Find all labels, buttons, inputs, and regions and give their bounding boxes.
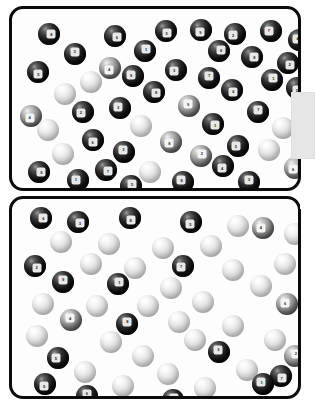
scatter-ball [284,223,298,245]
scatter-ball [37,119,59,141]
ball-number-label: 6 [229,87,238,96]
ball-shading [74,361,96,383]
scatter-ball [192,291,214,313]
scatter-ball: 6 [221,79,243,101]
scatter-ball: 7 [260,20,282,42]
panel-top-surface: 8659274316825439718654239716853297461835 [12,9,298,188]
scatter-ball: 3 [113,141,135,163]
ball-shading [130,115,152,137]
scatter-ball: 4 [252,217,274,239]
ball-number-label: 6 [82,389,91,396]
ball-shading [227,215,249,237]
scatter-ball: 2 [284,345,298,367]
ball-number-label: 3 [170,66,179,75]
ball-shading [32,293,54,315]
ball-shadow [12,9,33,23]
ball-shading [50,231,72,253]
ball-shadow [12,186,33,188]
scatter-ball: 8 [38,23,60,45]
ball-number-label: 3 [70,47,79,56]
ball-shading [200,235,222,257]
ball-number-label: 1 [269,74,278,83]
ball-number-label: 1 [115,278,124,287]
scatter-ball [250,275,272,297]
scatter-ball: 9 [34,373,56,395]
scatter-ball: 8 [143,81,165,103]
scatter-ball: 2 [190,145,212,167]
scatter-ball: 1 [67,169,89,188]
scatter-ball: 2 [277,52,298,74]
scatter-ball [222,315,244,337]
ball-number-label: 6 [112,33,121,42]
scatter-ball: 7 [95,159,117,181]
ball-number-label: 1 [210,121,219,130]
scatter-ball [124,257,146,279]
scatter-ball: 3 [165,59,187,81]
ball-number-label: 2 [285,60,294,69]
scatter-ball [152,237,174,259]
ball-number-label: 4 [25,113,34,122]
scatter-ball: 5 [47,347,69,369]
right-edge-notch [300,205,315,209]
ball-shadow [12,349,33,363]
scatter-ball [139,161,161,183]
ball-number-label: 7 [205,71,214,80]
scatter-ball [258,139,280,161]
ball-shading [137,295,159,317]
ball-shading [192,291,214,313]
scatter-ball: 5 [27,61,49,83]
ball-number-label: 4 [256,223,265,232]
scatter-ball [222,259,244,281]
scatter-ball [184,329,206,351]
ball-number-label: 7 [103,167,112,176]
scatter-ball [168,311,190,333]
ball-number-label: 2 [229,31,238,40]
scatter-ball: 9 [190,19,212,41]
ball-shadow [12,308,33,322]
scatter-ball [137,295,159,317]
scatter-ball: 7 [247,101,269,123]
ball-shadow [12,23,33,37]
ball-number-label: 6 [217,46,226,55]
ball-shading [284,223,298,245]
ball-shading [132,345,154,367]
scatter-ball [112,375,134,396]
ball-shading [112,375,134,396]
scatter-ball [264,329,286,351]
ball-shading [37,119,59,141]
scatter-ball [227,215,249,237]
scatter-ball [54,83,76,105]
scatter-ball: 6 [276,293,298,315]
ball-shading [98,233,120,255]
scatter-ball [86,295,108,317]
panel-top: 8659274316825439718654239716853297461835 [9,6,301,191]
scatter-ball: 5 [155,20,177,42]
scatter-ball: 8 [241,46,263,68]
ball-shadow [12,363,33,377]
ball-shading [86,295,108,317]
ball-shading [184,329,206,351]
ball-number-label: 5 [128,180,137,188]
ball-number-label: 9 [126,71,135,80]
ball-shading [274,253,296,275]
ball-number-label: 4 [293,34,298,43]
ball-number-label: 5 [51,354,60,363]
ball-number-label: 8 [152,88,161,97]
ball-number-label: 6 [289,165,298,174]
ball-number-label: 7 [254,105,263,114]
scatter-ball: 9 [52,271,74,293]
ball-shadow [12,50,33,64]
right-edge-tab[interactable] [291,92,315,159]
ball-number-label: 7 [277,374,286,383]
scatter-ball: 1 [252,373,274,395]
scatter-ball: 4 [288,29,298,51]
scatter-ball: 1 [202,113,224,135]
ball-shading [80,253,102,275]
ball-number-label: 5 [186,220,195,229]
scatter-ball: 5 [227,135,249,157]
scatter-ball: 9 [178,95,200,117]
scatter-ball: 7 [198,67,220,89]
scatter-ball: 6 [284,157,298,179]
scatter-ball: 9 [28,161,50,183]
ball-shadow [12,199,33,213]
